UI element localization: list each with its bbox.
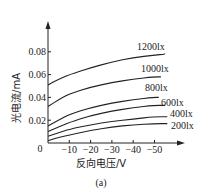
x-tick-label: −10 bbox=[61, 144, 77, 155]
curve-400lx bbox=[48, 117, 167, 136]
x-ticks: −10−20−30−40−50 bbox=[61, 140, 162, 155]
series-label-400lx: 400lx bbox=[170, 108, 193, 119]
y-tick-label: 0.02 bbox=[29, 115, 47, 126]
series-label-200lx: 200lx bbox=[171, 120, 194, 131]
x-axis-arrow-icon bbox=[177, 141, 185, 146]
figure-caption: (a) bbox=[95, 177, 106, 189]
series-label-800lx: 800lx bbox=[145, 82, 168, 93]
y-tick-label: 0.04 bbox=[29, 92, 47, 103]
x-tick-label: −40 bbox=[125, 144, 141, 155]
series-label-1000lx: 1000lx bbox=[141, 63, 169, 74]
series-label-1200lx: 1200lx bbox=[137, 41, 165, 52]
x-tick-label: −50 bbox=[147, 144, 163, 155]
y-tick-label: 0.06 bbox=[29, 69, 47, 80]
series-label-600lx: 600lx bbox=[161, 97, 184, 108]
y-axis-title: 光电流/mA bbox=[10, 73, 22, 123]
y-axis-arrow-icon bbox=[46, 21, 51, 29]
curve-200lx bbox=[48, 124, 167, 141]
curve-800lx bbox=[48, 97, 159, 126]
origin-label: 0 bbox=[38, 143, 43, 154]
x-tick-label: −20 bbox=[83, 144, 99, 155]
x-tick-label: −30 bbox=[104, 144, 120, 155]
photocurrent-chart: 0.020.040.060.08 −10−20−30−40−50 1200lx1… bbox=[0, 0, 203, 193]
curve-1000lx bbox=[48, 77, 161, 107]
y-tick-label: 0.08 bbox=[29, 46, 47, 57]
x-axis-title: 反向电压/V bbox=[76, 157, 126, 169]
